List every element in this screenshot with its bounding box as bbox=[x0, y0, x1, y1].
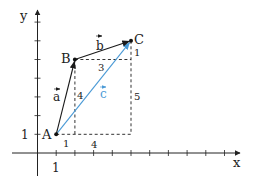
dim-label-c-dx: 4 bbox=[91, 139, 97, 150]
vector-diagram: y x 1 1 A B C a b c 1 4 4 3 1 bbox=[0, 0, 254, 186]
point-c-dot bbox=[129, 39, 133, 43]
x-axis-label: x bbox=[233, 155, 241, 170]
vector-b-label: b bbox=[96, 39, 104, 53]
y-axis-label: y bbox=[19, 8, 28, 23]
axes: y x 1 1 bbox=[12, 8, 241, 176]
dim-label-b-dx: 3 bbox=[98, 62, 104, 73]
vector-b-label-group: b bbox=[96, 36, 104, 53]
point-c-label: C bbox=[134, 32, 144, 47]
x-tick-label-1: 1 bbox=[52, 161, 60, 175]
dim-label-a-dy: 4 bbox=[77, 90, 83, 101]
point-a-dot bbox=[54, 132, 58, 136]
vector-a-label: a bbox=[53, 90, 60, 104]
dim-label-a-dx: 1 bbox=[63, 138, 69, 149]
vector-c-label-group: c bbox=[100, 87, 107, 101]
vector-a-label-group: a bbox=[53, 89, 60, 104]
vector-c-label: c bbox=[100, 87, 107, 101]
point-b-label: B bbox=[61, 51, 71, 66]
y-tick-label-1: 1 bbox=[21, 128, 29, 142]
point-a-label: A bbox=[41, 127, 52, 142]
dim-label-b-dy: 1 bbox=[134, 47, 140, 58]
dim-label-c-dy: 5 bbox=[134, 91, 140, 102]
point-b-dot bbox=[73, 58, 77, 62]
